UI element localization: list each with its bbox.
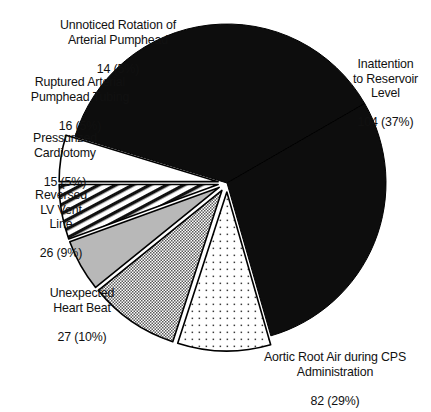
slice-label-reversed-lv-vent-line-value: 26 (9%)	[0, 246, 122, 260]
slice-label-unexpected-heart-beat-value: 27 (10%)	[18, 330, 146, 344]
slice-label-aortic-root-air: Aortic Root Air during CPS Administratio…	[242, 336, 428, 412]
slice-label-unnoticed-rotation-text: Unnoticed Rotation of Arterial Pumphead	[28, 18, 208, 47]
slice-label-inattention-reservoir: Inattention to Reservoir Level 104 (37%)	[340, 43, 431, 144]
slice-label-aortic-root-air-text: Aortic Root Air during CPS Administratio…	[242, 350, 428, 379]
slice-label-unexpected-heart-beat: Unexpected Heart Beat 27 (10%)	[18, 272, 146, 358]
slice-label-reversed-lv-vent-line-text: Reversed LV Vent Line	[0, 188, 122, 231]
slice-label-aortic-root-air-value: 82 (29%)	[242, 394, 428, 408]
slice-label-inattention-reservoir-text: Inattention to Reservoir Level	[340, 57, 431, 100]
slice-label-ruptured-tubing-text: Ruptured Arterial Pumphead Tubing	[0, 75, 160, 104]
slice-label-unexpected-heart-beat-text: Unexpected Heart Beat	[18, 286, 146, 315]
slice-label-reversed-lv-vent-line: Reversed LV Vent Line 26 (9%)	[0, 174, 122, 275]
slice-label-inattention-reservoir-value: 104 (37%)	[340, 115, 431, 129]
slice-label-pressurized-cardiotomy-text: Pressurized Cardiotomy	[0, 131, 130, 160]
